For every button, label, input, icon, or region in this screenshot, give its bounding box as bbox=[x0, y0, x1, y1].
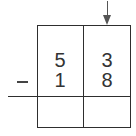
minuend-ones-digit: 3 bbox=[95, 50, 119, 70]
grid-right-border bbox=[130, 25, 131, 128]
minuend-tens-digit: 5 bbox=[48, 50, 72, 70]
grid-bottom-border bbox=[37, 127, 131, 128]
grid-left-border bbox=[37, 25, 38, 128]
minus-sign bbox=[17, 81, 28, 83]
arrow-head bbox=[103, 15, 111, 25]
grid-top-border bbox=[37, 25, 131, 26]
answer-line bbox=[8, 96, 131, 97]
subtrahend-ones-digit: 8 bbox=[95, 70, 119, 90]
subtrahend-tens-digit: 1 bbox=[48, 70, 72, 90]
grid-column-divider bbox=[83, 25, 84, 128]
